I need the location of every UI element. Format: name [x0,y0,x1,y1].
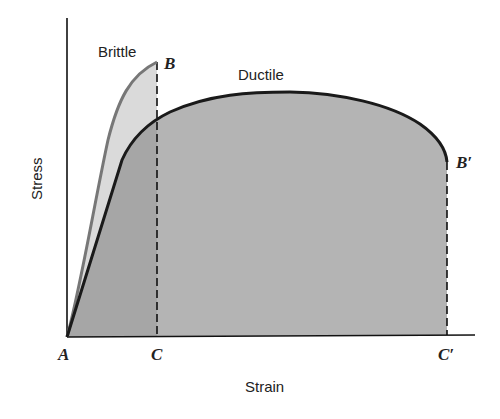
point-C-label: C [151,345,163,364]
ductile-label: Ductile [238,66,284,83]
point-B-prime-label: B′ [455,153,472,172]
y-axis-label: Stress [28,157,45,200]
point-C-prime-label: C′ [438,345,454,364]
x-axis-label: Strain [245,378,284,395]
stress-strain-diagram: Brittle Ductile Strain Stress A B C B′ C… [0,0,500,419]
point-B-label: B [163,54,175,73]
brittle-label: Brittle [98,43,136,60]
point-A-label: A [57,345,69,364]
